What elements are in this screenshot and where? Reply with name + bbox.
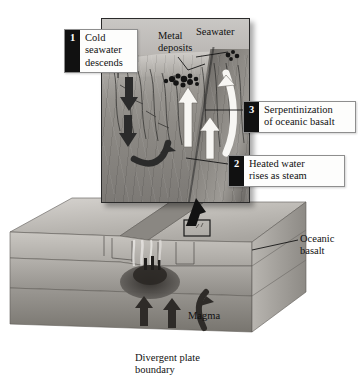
callout-2-number: 2 <box>229 156 244 186</box>
heated-water-scarp-arrowhead <box>217 75 235 87</box>
label-magma: Magma <box>188 310 220 322</box>
callout-box-1[interactable]: 1 Cold seawater descends <box>64 29 138 73</box>
label-metal-deposits: Metal deposits <box>158 30 192 55</box>
callout-3-number: 3 <box>244 102 259 132</box>
block-diagram-svg <box>8 196 308 354</box>
cold-recirculation-arrowhead <box>160 145 176 153</box>
callout-box-2[interactable]: 2 Heated water rises as steam <box>228 155 345 187</box>
callout-3-text: Serpentinization of oceanic basalt <box>259 102 340 132</box>
figure-caption: Divergent plate boundary <box>135 352 200 377</box>
cold-seawater-arrows <box>119 77 138 147</box>
callout-1-text: Cold seawater descends <box>80 30 128 72</box>
label-oceanic-basalt: Oceanic basalt <box>300 233 334 258</box>
callout-1-number: 1 <box>65 30 80 72</box>
metal-deposit-cluster <box>164 73 199 87</box>
figure-root: 1 Cold seawater descends 3 Serpentinizat… <box>0 0 358 388</box>
metal-deposit-cluster-upper <box>226 50 240 61</box>
magma-core <box>133 265 167 285</box>
callout-2-text: Heated water rises as steam <box>244 156 312 186</box>
cold-recirculation-arrow <box>134 143 168 163</box>
label-seawater: Seawater <box>196 26 234 38</box>
heated-water-arrows <box>178 87 220 159</box>
callout-box-3[interactable]: 3 Serpentinization of oceanic basalt <box>243 101 356 133</box>
block-diagram <box>8 196 308 354</box>
